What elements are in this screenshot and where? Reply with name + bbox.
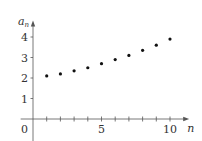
- y-tick-label: 1: [21, 93, 28, 106]
- x-axis-label: n: [187, 122, 194, 135]
- data-points: [45, 37, 171, 77]
- y-tick-label: 4: [21, 31, 28, 44]
- data-point: [168, 37, 171, 40]
- y-tick-label: 3: [21, 52, 28, 65]
- data-point: [86, 66, 89, 69]
- x-axis-arrow-icon: [183, 117, 189, 121]
- data-point: [59, 72, 62, 75]
- y-axis-arrow-icon: [31, 21, 35, 27]
- data-point: [45, 74, 48, 77]
- origin-label: 0: [21, 123, 28, 136]
- data-point: [100, 62, 103, 65]
- data-point: [127, 54, 130, 57]
- x-tick-label: 10: [163, 123, 177, 136]
- data-point: [73, 69, 76, 72]
- axis-ticks: [31, 37, 171, 122]
- tick-labels: 5101234: [21, 31, 177, 136]
- x-tick-label: 5: [98, 123, 105, 136]
- data-point: [141, 49, 144, 52]
- y-tick-label: 2: [21, 72, 28, 85]
- data-point: [155, 44, 158, 47]
- sequence-scatter-plot: 5101234 n an 0: [0, 0, 202, 141]
- data-point: [114, 58, 117, 61]
- y-axis-label: an: [18, 15, 30, 29]
